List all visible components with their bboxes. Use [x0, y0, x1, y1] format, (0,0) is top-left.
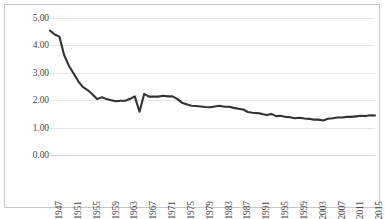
x-tick-label: 1951 [73, 201, 83, 213]
x-tick-label: 1963 [129, 201, 139, 213]
y-tick-label: 0.00 [9, 150, 49, 160]
x-tick-label: 1987 [242, 201, 252, 213]
x-tick-label: 1991 [261, 201, 271, 213]
x-tick-label: 1999 [299, 201, 309, 213]
x-tick-label: 1947 [54, 201, 64, 213]
x-tick-label: 1955 [92, 201, 102, 213]
x-axis: 1947195119551959196319671971197519791983… [50, 157, 375, 203]
x-tick-label: 1995 [280, 201, 290, 213]
x-tick-label: 1979 [205, 201, 215, 213]
x-tick-label: 2003 [318, 201, 328, 213]
y-tick-label: 5.00 [9, 13, 49, 23]
x-tick-label: 1975 [186, 201, 196, 213]
plot-area [50, 18, 375, 155]
line-series [50, 18, 375, 155]
x-tick-label: 1967 [148, 201, 158, 213]
x-tick-label: 1971 [167, 201, 177, 213]
x-tick-label: 2011 [355, 201, 365, 213]
x-tick-label: 1983 [224, 201, 234, 213]
x-tick-label: 2015 [374, 201, 384, 213]
x-tick-label: 1959 [111, 201, 121, 213]
gridline [50, 155, 375, 156]
y-tick-label: 1.00 [9, 123, 49, 133]
y-axis: 5.004.003.002.001.000.00 [5, 5, 49, 209]
chart-plot-stage: 5.004.003.002.001.000.00 194719511955195… [5, 5, 381, 209]
chart-frame: 5.004.003.002.001.000.00 194719511955195… [4, 4, 380, 208]
y-tick-label: 3.00 [9, 68, 49, 78]
x-tick-label: 2007 [337, 201, 347, 213]
y-tick-label: 2.00 [9, 95, 49, 105]
series-polyline [50, 31, 375, 121]
y-tick-label: 4.00 [9, 40, 49, 50]
